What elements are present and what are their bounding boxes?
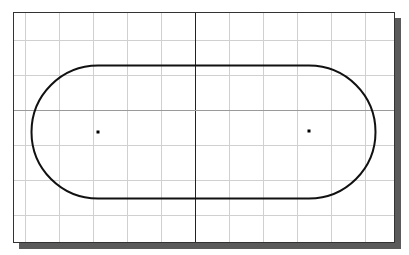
right-arc-center-point <box>308 130 311 133</box>
left-arc-center-point <box>97 131 100 134</box>
viewport-background <box>13 12 395 243</box>
drawing-canvas[interactable] <box>0 0 409 255</box>
